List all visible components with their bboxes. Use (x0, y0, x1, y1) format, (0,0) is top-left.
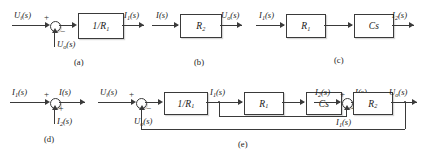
signal-label-output-d: I(s) (59, 88, 71, 97)
signal-label-output-b: Uo(s) (221, 11, 239, 20)
arrowhead-block2-in-e (238, 99, 243, 105)
signal-label-node2-e: I2(s) (315, 88, 330, 97)
panel-caption-b: (b) (194, 58, 204, 67)
wire-inner-feedback-across-e (219, 116, 347, 117)
sign-plus-a: + (44, 13, 49, 22)
signal-label-inner-feedback-e: I1(s) (336, 118, 351, 127)
wire-input-a (12, 25, 48, 26)
panel-caption-e: (e) (238, 140, 248, 149)
arrowhead-output-b (237, 22, 242, 28)
signal-label-output-c: I2(s) (392, 11, 407, 20)
arrowhead-output-d (80, 99, 85, 105)
figure-canvas: Ui(s) + − Uo(s) 1/R1 I1(s) (a) I(s) (0, 0, 424, 161)
sign-plus-second-d: + (59, 104, 64, 113)
sign-minus-feedback-e: − (146, 104, 151, 113)
wire-outer-feedback-across-e (141, 129, 405, 130)
arrowhead-outer-feedback-e (139, 105, 145, 110)
block-resistor-1-e: R1 (244, 92, 284, 115)
wire-outer-feedback-up-e (141, 107, 142, 129)
signal-label-output-a: I1(s) (124, 11, 139, 20)
arrowhead-block2-in-c (348, 22, 353, 28)
wire-input-d (10, 102, 48, 103)
panel-caption-d: (d) (44, 135, 54, 144)
signal-label-input-c: I1(s) (259, 11, 274, 20)
sign-plus-input-e: + (129, 90, 134, 99)
arrowhead-output-e (412, 99, 417, 105)
arrowhead-input-b (174, 22, 179, 28)
panel-caption-a: (a) (74, 58, 84, 67)
signal-label-outer-feedback-e: Uo(s) (134, 117, 152, 126)
arrowhead-input-c (280, 22, 285, 28)
block-capacitor-c: Cs (354, 14, 394, 38)
arrowhead-feedback-a (52, 28, 58, 33)
arrowhead-inner-feedback-e (344, 105, 350, 110)
signal-label-input-b: I(s) (156, 11, 168, 20)
block-gain-a: 1/R1 (78, 13, 124, 39)
block-resistor-2-e: R2 (353, 92, 393, 115)
wire-outer-feedback-down-e (405, 102, 406, 129)
arrowhead-output-c (409, 22, 414, 28)
sign-minus-a: − (60, 27, 65, 36)
panel-caption-c: (c) (334, 56, 344, 65)
arrowhead-block3-in-e (300, 99, 305, 105)
signal-label-feedback-a: Uo(s) (57, 40, 75, 49)
arrowhead-block-in-a (72, 22, 77, 28)
wire-block1-to-block2-e (206, 102, 242, 103)
signal-label-second-d: I2(s) (57, 117, 72, 126)
block-gain-b: R2 (180, 14, 222, 38)
signal-label-input-d: I1(s) (12, 88, 27, 97)
signal-label-mid-e: I1(s) (210, 88, 225, 97)
sign-plus-input-d: + (44, 90, 49, 99)
wire-inner-feedback-down-e (219, 102, 220, 116)
signal-label-input-e: Ui(s) (100, 88, 117, 97)
wire-input-e (98, 102, 134, 103)
arrowhead-block1-in-e (158, 99, 163, 105)
block-gain-1-e: 1/R1 (164, 92, 208, 115)
block-resistor-c: R1 (286, 14, 326, 38)
arrowhead-sum2-in-e (336, 99, 341, 105)
signal-label-output-e: Uo(s) (389, 88, 407, 97)
arrowhead-output-a (139, 22, 144, 28)
signal-label-input-a: Ui(s) (14, 11, 31, 20)
arrowhead-second-input-d (52, 105, 58, 110)
